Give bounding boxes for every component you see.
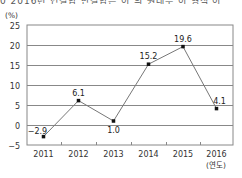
y-axis-tick-labels: 2520151050−5 xyxy=(8,22,20,151)
line-chart: 2520151050−5 201120122013201420152016 −2… xyxy=(0,0,242,178)
x-axis-tick-labels: 201120122013201420152016 xyxy=(33,150,226,159)
svg-text:10: 10 xyxy=(10,82,20,91)
data-point-markers xyxy=(42,45,219,139)
svg-text:15.2: 15.2 xyxy=(140,52,158,61)
x-axis-unit-label: (연도) xyxy=(206,161,226,170)
y-axis-unit-label: (%) xyxy=(5,11,18,20)
svg-text:1.0: 1.0 xyxy=(107,126,120,135)
svg-text:5: 5 xyxy=(15,102,20,111)
gridlines xyxy=(27,46,233,126)
svg-text:2014: 2014 xyxy=(138,150,158,159)
svg-text:25: 25 xyxy=(10,22,20,31)
svg-text:2013: 2013 xyxy=(103,150,123,159)
svg-text:2012: 2012 xyxy=(68,150,88,159)
svg-text:19.6: 19.6 xyxy=(174,35,192,44)
svg-text:−2.9: −2.9 xyxy=(28,127,47,136)
series-line xyxy=(44,47,217,137)
svg-text:4.1: 4.1 xyxy=(213,97,226,106)
svg-text:6.1: 6.1 xyxy=(72,89,85,98)
svg-text:−5: −5 xyxy=(8,142,20,151)
svg-text:2016: 2016 xyxy=(206,150,226,159)
svg-text:0: 0 xyxy=(15,122,20,131)
svg-text:2015: 2015 xyxy=(173,150,193,159)
svg-text:15: 15 xyxy=(10,62,20,71)
svg-text:2011: 2011 xyxy=(33,150,53,159)
svg-text:20: 20 xyxy=(10,42,20,51)
